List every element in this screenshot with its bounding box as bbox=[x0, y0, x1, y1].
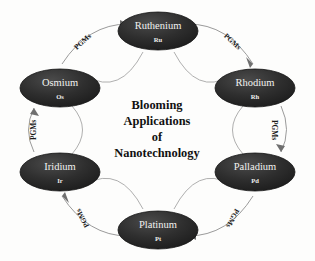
node-palladium[interactable]: Palladium Pd bbox=[215, 153, 295, 191]
node-symbol-ruthenium: Ru bbox=[154, 36, 163, 43]
inner-arc-rhodium-palladium bbox=[233, 106, 244, 154]
node-symbol-osmium: Os bbox=[56, 93, 64, 100]
node-symbol-platinum: Pt bbox=[155, 235, 162, 242]
center-title-line-3: of bbox=[152, 130, 163, 144]
center-title: Blooming Applications of Nanotechnology bbox=[114, 98, 200, 160]
inner-arc-platinum-iridium bbox=[86, 178, 143, 209]
center-title-line-4: Nanotechnology bbox=[114, 146, 200, 160]
inner-arc-osmium-ruthenium bbox=[86, 52, 143, 82]
center-title-line-1: Blooming bbox=[132, 98, 184, 112]
node-label-iridium: Iridium bbox=[44, 161, 76, 172]
node-platinum[interactable]: Platinum Pt bbox=[118, 211, 198, 249]
node-label-rhodium: Rhodium bbox=[235, 77, 274, 88]
edge-label-osmium-ruthenium: PGMs bbox=[72, 31, 93, 51]
edge-label-iridium-osmium: PGMs bbox=[29, 120, 38, 140]
node-symbol-iridium: Ir bbox=[57, 177, 63, 184]
outer-arc-rhodium-palladium bbox=[281, 106, 287, 152]
edge-label-rhodium-palladium: PGMs bbox=[270, 120, 279, 140]
node-label-ruthenium: Ruthenium bbox=[135, 20, 182, 31]
pgm-cycle-diagram: PGMs PGMs PGMs PGMs PGMs PGMs Blooming A… bbox=[0, 0, 315, 261]
edge-label-platinum-iridium: PGMs bbox=[74, 207, 91, 229]
center-title-line-2: Applications bbox=[124, 114, 191, 128]
edge-label-ruthenium-rhodium: PGMs bbox=[222, 31, 243, 51]
node-ruthenium[interactable]: Ruthenium Ru bbox=[118, 12, 198, 50]
diagram-canvas: PGMs PGMs PGMs PGMs PGMs PGMs Blooming A… bbox=[0, 0, 315, 261]
node-symbol-palladium: Pd bbox=[251, 177, 259, 184]
node-label-platinum: Platinum bbox=[139, 219, 177, 230]
node-label-palladium: Palladium bbox=[234, 161, 277, 172]
node-osmium[interactable]: Osmium Os bbox=[20, 69, 100, 107]
edge-label-palladium-platinum: PGMs bbox=[224, 207, 241, 229]
node-iridium[interactable]: Iridium Ir bbox=[20, 153, 100, 191]
node-rhodium[interactable]: Rhodium Rh bbox=[215, 69, 295, 107]
node-label-osmium: Osmium bbox=[42, 77, 78, 88]
node-symbol-rhodium: Rh bbox=[251, 93, 260, 100]
inner-arc-iridium-osmium bbox=[72, 106, 83, 154]
